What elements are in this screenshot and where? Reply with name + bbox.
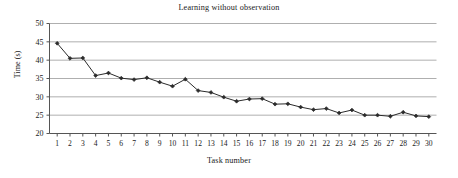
x-tick-label: 16 [246,139,254,148]
x-tick-label: 23 [335,139,343,148]
data-point-marker [312,108,316,112]
gridlines [50,24,437,116]
x-tick-label: 6 [119,139,123,148]
y-tick-label: 50 [36,19,44,28]
data-series [55,41,430,118]
data-point-marker [337,111,341,115]
data-point-marker [222,95,226,99]
x-tick-label: 21 [310,139,318,148]
data-point-marker [363,113,367,117]
x-tick-label: 22 [322,139,330,148]
y-tick-label: 30 [36,93,44,102]
x-tick-label: 20 [297,139,305,148]
data-point-marker [158,80,162,84]
data-point-marker [376,113,380,117]
x-tick-label: 2 [68,139,72,148]
x-tick-label: 27 [387,139,395,148]
data-point-marker [401,110,405,114]
x-tick-label: 13 [207,139,215,148]
x-tick-label: 29 [412,139,420,148]
data-point-marker [248,97,252,101]
x-tick-label: 8 [145,139,149,148]
y-tick-label: 20 [36,129,44,138]
data-point-marker [145,76,149,80]
data-point-marker [273,102,277,106]
y-tick-label: 45 [36,38,44,47]
data-point-marker [171,84,175,88]
x-tick-label: 3 [81,139,85,148]
x-tick-label: 28 [399,139,407,148]
y-tick-label: 25 [36,111,44,120]
data-point-marker [286,102,290,106]
y-tick-label: 35 [36,74,44,83]
x-tick-label: 19 [284,139,292,148]
data-point-marker [107,71,111,75]
x-tick-label: 14 [220,139,228,148]
x-tick-label: 24 [348,139,356,148]
x-tick-label: 18 [271,139,279,148]
x-tick-label: 15 [233,139,241,148]
plot-area: 20253035404550 1234567891011121314151617… [0,0,458,178]
x-tick-label: 17 [258,139,266,148]
x-tick-label: 9 [158,139,162,148]
chart-figure: Learning without observation Time (s) Ta… [0,0,458,178]
x-tick-label: 30 [425,139,433,148]
x-tick-label: 26 [374,139,382,148]
data-point-marker [350,108,354,112]
x-tick-label: 1 [55,139,59,148]
x-tick-label: 12 [194,139,202,148]
x-tick-label: 7 [132,139,136,148]
data-point-marker [235,99,239,103]
series-line [57,43,429,116]
x-tick-label: 11 [182,139,190,148]
x-axis: 1234567891011121314151617181920212223242… [50,134,437,149]
y-axis: 20253035404550 [36,19,50,138]
data-point-marker [324,107,328,111]
x-tick-label: 5 [107,139,111,148]
data-point-marker [414,114,418,118]
x-tick-label: 4 [94,139,98,148]
x-tick-label: 10 [169,139,177,148]
data-point-marker [209,91,213,95]
data-point-marker [119,76,123,80]
y-tick-label: 40 [36,56,44,65]
data-point-marker [299,105,303,109]
data-point-marker [260,97,264,101]
x-tick-label: 25 [361,139,369,148]
